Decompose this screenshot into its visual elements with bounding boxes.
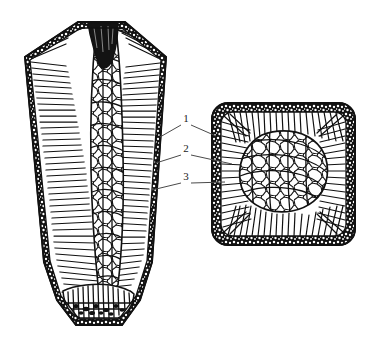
figure-container: 123 [0, 0, 370, 347]
callout-2-label: 2 [183, 142, 189, 154]
callout-1-label: 1 [183, 112, 189, 124]
macrostructure-figure: 123 [0, 0, 370, 347]
longitudinal-section [25, 20, 166, 325]
transverse-section [212, 103, 355, 245]
callout-1: 1 [160, 112, 216, 137]
callout-3-label: 3 [183, 170, 189, 182]
callout-1-leader-left [160, 125, 181, 137]
